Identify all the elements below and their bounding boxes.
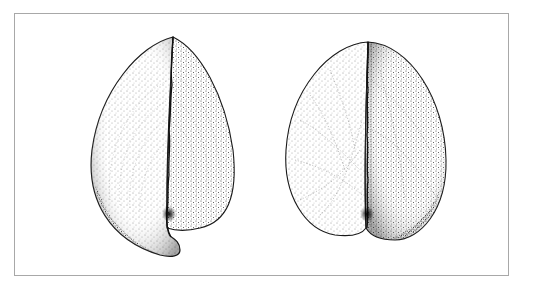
- left-specimen: [91, 37, 234, 256]
- specimen-illustration: [0, 0, 553, 290]
- left-specimen-right-valve: [167, 37, 234, 230]
- right-specimen: [286, 42, 446, 240]
- right-specimen-left-half: [286, 42, 368, 236]
